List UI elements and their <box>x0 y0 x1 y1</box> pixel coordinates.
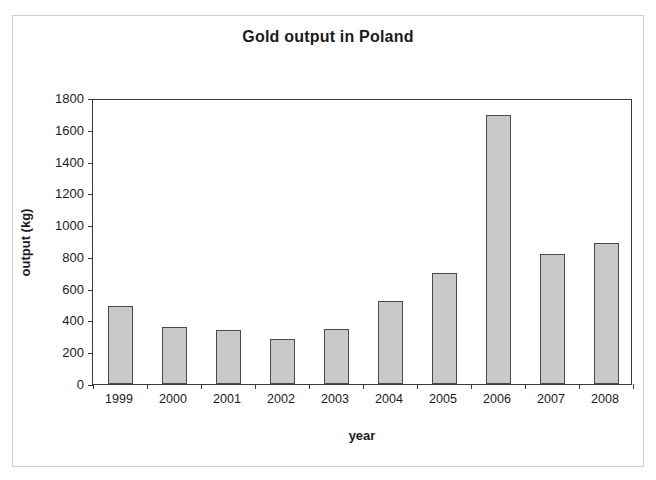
bar-2003 <box>324 329 349 384</box>
x-axis-tick-mark <box>363 384 364 389</box>
y-axis-label-text: output (kg) <box>19 208 34 276</box>
y-axis-tick-mark <box>88 321 93 322</box>
y-axis-tick-label: 1800 <box>55 91 84 106</box>
x-axis-tick-mark <box>147 384 148 389</box>
bar-2005 <box>432 273 457 384</box>
x-axis-label: year <box>92 428 632 443</box>
x-axis-tick-mark <box>633 384 634 389</box>
y-axis-tick-label: 1200 <box>55 186 84 201</box>
y-axis-tick-label: 0 <box>77 377 84 392</box>
x-axis-tick-mark <box>309 384 310 389</box>
x-axis-tick-label-2004: 2004 <box>362 392 416 406</box>
x-axis-tick-mark <box>201 384 202 389</box>
y-axis-tick-label: 400 <box>62 313 84 328</box>
y-axis-tick-label: 200 <box>62 345 84 360</box>
y-axis-tick-mark <box>88 290 93 291</box>
y-axis-tick-mark <box>88 226 93 227</box>
x-axis-tick-label-2007: 2007 <box>524 392 578 406</box>
bar-2002 <box>270 339 295 384</box>
y-axis-tick-label: 1600 <box>55 123 84 138</box>
x-axis-tick-mark <box>525 384 526 389</box>
x-axis-tick-mark <box>255 384 256 389</box>
bar-2008 <box>594 243 619 384</box>
y-axis-tick-mark <box>88 194 93 195</box>
y-axis-tick-mark <box>88 163 93 164</box>
y-axis-tick-mark <box>88 353 93 354</box>
x-axis-tick-label-2003: 2003 <box>308 392 362 406</box>
x-axis-tick-label-2008: 2008 <box>578 392 632 406</box>
y-axis-tick-label: 800 <box>62 250 84 265</box>
y-axis-tick-label: 600 <box>62 282 84 297</box>
y-axis-label: output (kg) <box>14 99 38 385</box>
x-axis-tick-label-2001: 2001 <box>200 392 254 406</box>
x-axis-tick-label-2000: 2000 <box>146 392 200 406</box>
y-axis-tick-mark <box>88 99 93 100</box>
x-axis-tick-label-2005: 2005 <box>416 392 470 406</box>
figure-canvas: Gold output in Poland output (kg) 020040… <box>0 0 656 480</box>
plot-area: 020040060080010001200140016001800 <box>92 99 632 385</box>
y-axis-tick-label: 1000 <box>55 218 84 233</box>
bar-2006 <box>486 115 511 384</box>
x-axis-tick-mark <box>579 384 580 389</box>
y-axis-tick-mark <box>88 258 93 259</box>
x-axis-tick-mark <box>93 384 94 389</box>
x-axis-tick-label-1999: 1999 <box>92 392 146 406</box>
y-axis-tick-label: 1400 <box>55 155 84 170</box>
bar-2004 <box>378 301 403 384</box>
chart-title: Gold output in Poland <box>0 28 656 46</box>
x-axis-tick-label-2006: 2006 <box>470 392 524 406</box>
bar-1999 <box>108 306 133 384</box>
x-axis-tick-label-2002: 2002 <box>254 392 308 406</box>
x-axis-tick-mark <box>417 384 418 389</box>
bar-2000 <box>162 327 187 384</box>
bar-2001 <box>216 330 241 384</box>
x-axis-tick-mark <box>471 384 472 389</box>
y-axis-tick-mark <box>88 131 93 132</box>
bar-2007 <box>540 254 565 384</box>
